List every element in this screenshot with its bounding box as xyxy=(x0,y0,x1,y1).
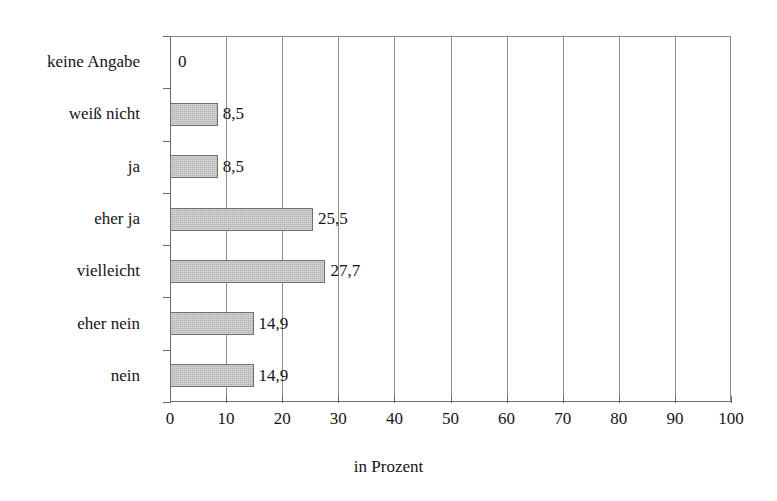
x-tick-100 xyxy=(731,396,732,403)
y-tick-2 xyxy=(163,141,170,142)
x-tick-label-100: 100 xyxy=(701,409,761,428)
y-tick-7 xyxy=(163,402,170,403)
value-label-1: 8,5 xyxy=(223,105,244,123)
x-tick-90 xyxy=(675,396,676,403)
value-label-2: 8,5 xyxy=(223,158,244,176)
x-tick-80 xyxy=(619,396,620,403)
gridline-90 xyxy=(675,36,676,402)
value-label-6: 14,9 xyxy=(259,367,289,385)
value-label-0: 0 xyxy=(178,53,187,71)
category-label-4: vielleicht xyxy=(77,262,140,280)
category-label-3: eher ja xyxy=(94,210,140,228)
bar-6 xyxy=(170,364,254,387)
bar-chart: keine Angabeweiß nichtjaeher javielleich… xyxy=(0,0,777,501)
y-tick-5 xyxy=(163,297,170,298)
category-label-1: weiß nicht xyxy=(69,105,140,123)
x-tick-50 xyxy=(451,396,452,403)
x-tick-60 xyxy=(507,396,508,403)
y-tick-3 xyxy=(163,193,170,194)
x-tick-0 xyxy=(170,396,171,403)
x-tick-label-70: 70 xyxy=(533,409,593,428)
y-tick-6 xyxy=(163,350,170,351)
gridline-40 xyxy=(394,36,395,402)
bar-4 xyxy=(170,260,325,283)
value-label-4: 27,7 xyxy=(330,262,360,280)
x-tick-label-10: 10 xyxy=(196,409,256,428)
x-tick-label-60: 60 xyxy=(477,409,537,428)
category-label-2: ja xyxy=(128,158,140,176)
y-tick-4 xyxy=(163,245,170,246)
gridline-60 xyxy=(507,36,508,402)
x-tick-30 xyxy=(338,396,339,403)
y-tick-1 xyxy=(163,88,170,89)
value-label-5: 14,9 xyxy=(259,315,289,333)
category-label-6: nein xyxy=(111,367,140,385)
bar-3 xyxy=(170,208,313,231)
category-label-0: keine Angabe xyxy=(47,53,140,71)
x-tick-label-0: 0 xyxy=(140,409,200,428)
x-axis-title: in Prozent xyxy=(0,457,777,477)
x-tick-10 xyxy=(226,396,227,403)
x-tick-label-30: 30 xyxy=(308,409,368,428)
gridline-70 xyxy=(563,36,564,402)
bar-2 xyxy=(170,155,218,178)
x-tick-label-20: 20 xyxy=(252,409,312,428)
x-tick-label-40: 40 xyxy=(364,409,424,428)
value-label-3: 25,5 xyxy=(318,210,348,228)
x-tick-label-80: 80 xyxy=(589,409,649,428)
gridline-80 xyxy=(619,36,620,402)
y-tick-0 xyxy=(163,36,170,37)
category-label-5: eher nein xyxy=(77,315,140,333)
bar-1 xyxy=(170,103,218,126)
gridline-50 xyxy=(451,36,452,402)
bar-5 xyxy=(170,312,254,335)
x-tick-20 xyxy=(282,396,283,403)
x-tick-40 xyxy=(394,396,395,403)
x-tick-label-90: 90 xyxy=(645,409,705,428)
x-tick-70 xyxy=(563,396,564,403)
x-tick-label-50: 50 xyxy=(421,409,481,428)
